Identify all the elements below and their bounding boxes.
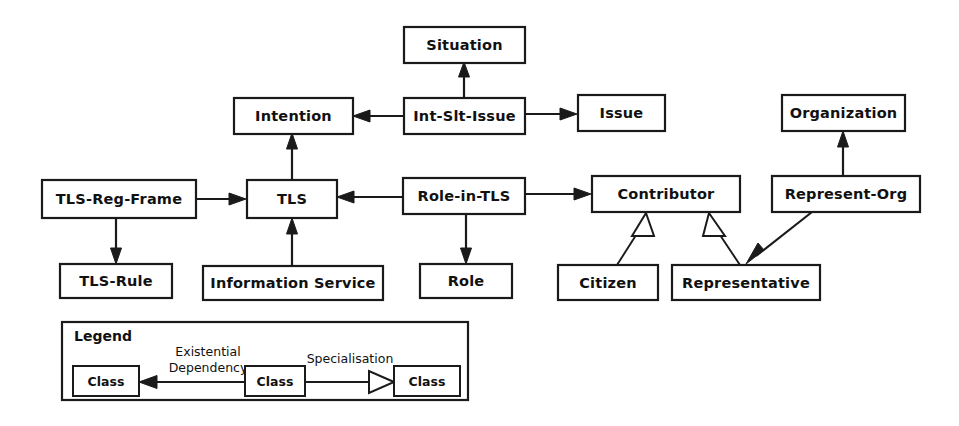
edge-int-slt-issue-to-issue [525, 108, 577, 120]
node-label: Citizen [579, 275, 637, 291]
legend: Legend Existential Dependency Specialisa… [62, 322, 468, 400]
edge-represent-org-to-organization [838, 131, 849, 176]
legend-existential-label-line2: Dependency [169, 360, 248, 375]
node-tls-reg-frame[interactable]: TLS-Reg-Frame [42, 180, 196, 218]
node-represent-org[interactable]: Represent-Org [772, 176, 920, 212]
node-label: Role [448, 273, 485, 289]
node-tls[interactable]: TLS [247, 180, 337, 218]
node-label: TLS-Rule [79, 273, 152, 289]
node-label: Represent-Org [785, 186, 908, 202]
node-role[interactable]: Role [420, 264, 512, 298]
node-issue[interactable]: Issue [578, 95, 665, 131]
node-label: TLS-Reg-Frame [56, 191, 182, 207]
edge-layer [111, 62, 849, 266]
edge-role-in-tls-to-role [461, 214, 472, 264]
legend-class-right: Class [394, 366, 460, 396]
node-citizen[interactable]: Citizen [558, 265, 658, 300]
legend-existential-label-line1: Existential [175, 344, 240, 359]
legend-existential-dependency-arrow [139, 376, 245, 389]
node-label: Intention [255, 108, 332, 124]
legend-specialisation-label: Specialisation [307, 351, 394, 366]
tls-class-diagram: Situation Intention Int-Slt-Issue Issue … [0, 0, 959, 426]
legend-class-middle: Class [245, 366, 305, 396]
edge-int-slt-issue-to-intention [353, 110, 404, 122]
edge-tls-to-intention [287, 133, 298, 180]
node-layer: Situation Intention Int-Slt-Issue Issue … [42, 27, 920, 300]
legend-specialisation-arrow [305, 371, 394, 393]
node-label: Situation [426, 37, 502, 53]
node-label: Information Service [210, 275, 375, 291]
legend-class-left: Class [73, 366, 139, 396]
edge-tls-reg-frame-to-tls [196, 193, 246, 205]
node-label: TLS [277, 191, 307, 207]
node-label: Role-in-TLS [418, 188, 511, 204]
legend-class-label: Class [257, 374, 294, 389]
node-organization[interactable]: Organization [782, 95, 905, 131]
edge-represent-org-to-representative [746, 212, 812, 264]
node-label: Representative [682, 275, 810, 291]
edge-int-slt-issue-to-situation [459, 62, 470, 98]
node-int-slt-issue[interactable]: Int-Slt-Issue [404, 98, 525, 134]
node-label: Int-Slt-Issue [413, 108, 515, 124]
node-label: Organization [790, 105, 898, 121]
node-contributor[interactable]: Contributor [592, 176, 740, 212]
node-tls-rule[interactable]: TLS-Rule [60, 264, 172, 298]
legend-class-label: Class [88, 374, 125, 389]
node-label: Issue [600, 105, 644, 121]
legend-title: Legend [74, 328, 132, 344]
edge-role-in-tls-to-contributor [525, 188, 591, 200]
node-situation[interactable]: Situation [404, 27, 525, 63]
legend-class-label: Class [409, 374, 446, 389]
edge-tls-reg-frame-to-tls-rule [111, 218, 122, 264]
node-role-in-tls[interactable]: Role-in-TLS [403, 178, 525, 214]
node-label: Contributor [618, 186, 716, 202]
edge-citizen-to-contributor [617, 213, 654, 265]
node-intention[interactable]: Intention [234, 98, 353, 134]
node-representative[interactable]: Representative [672, 265, 820, 300]
node-information-service[interactable]: Information Service [203, 266, 383, 300]
edge-representative-to-contributor [703, 213, 740, 265]
edge-information-service-to-tls [287, 218, 298, 266]
edge-role-in-tls-to-tls [337, 191, 403, 203]
